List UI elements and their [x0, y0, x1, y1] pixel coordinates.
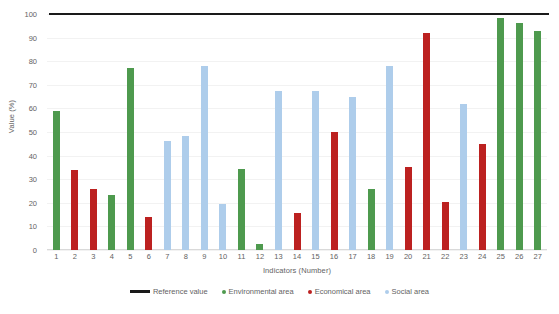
- x-axis-tick-label: 10: [219, 252, 227, 261]
- x-axis-tick-label: 22: [441, 252, 449, 261]
- x-axis-tick-label: 8: [184, 252, 188, 261]
- x-axis-tick-label: 24: [478, 252, 486, 261]
- x-axis-tick-label: 17: [348, 252, 356, 261]
- x-axis-tick-label: 14: [293, 252, 301, 261]
- x-axis-tick-label: 2: [73, 252, 77, 261]
- x-axis-tick-label: 3: [91, 252, 95, 261]
- bar-1[interactable]: [53, 111, 60, 250]
- y-axis-tick-label: 30: [29, 175, 37, 184]
- x-axis-tick-label: 13: [274, 252, 282, 261]
- y-axis-tick-label: 50: [29, 128, 37, 137]
- bar-chart: Value (%) 0102030405060708090100 1234567…: [0, 0, 559, 314]
- bar-26[interactable]: [516, 23, 523, 250]
- bar-4[interactable]: [108, 195, 115, 250]
- x-axis-tick-label: 12: [256, 252, 264, 261]
- x-axis-tick-label: 16: [330, 252, 338, 261]
- x-axis-tick-label: 19: [385, 252, 393, 261]
- bar-6[interactable]: [145, 217, 152, 250]
- bar-14[interactable]: [294, 213, 301, 250]
- y-axis-tick-label: 90: [29, 33, 37, 42]
- bar-8[interactable]: [182, 136, 189, 250]
- y-axis-tick-label: 60: [29, 104, 37, 113]
- bar-20[interactable]: [405, 167, 412, 250]
- legend-label-environmental-area: Environmental area: [229, 287, 294, 296]
- legend-item-environmental-area: Environmental area: [222, 287, 294, 296]
- x-axis-tick-label: 25: [497, 252, 505, 261]
- x-axis-tick-label: 23: [459, 252, 467, 261]
- x-axis-tick-label: 7: [165, 252, 169, 261]
- bar-10[interactable]: [219, 204, 226, 250]
- bar-11[interactable]: [238, 169, 245, 250]
- x-axis-tick-label: 11: [238, 252, 246, 261]
- bar-2[interactable]: [71, 170, 78, 250]
- bar-5[interactable]: [127, 68, 134, 250]
- y-axis-tick-label: 10: [29, 222, 37, 231]
- chart-legend: Reference value Environmental area Econo…: [0, 287, 559, 296]
- bar-17[interactable]: [349, 97, 356, 250]
- x-axis-tick-label: 26: [515, 252, 523, 261]
- x-axis-tick-label: 21: [422, 252, 430, 261]
- legend-label-reference-value: Reference value: [153, 287, 208, 296]
- line-swatch-icon: [130, 290, 150, 293]
- bar-9[interactable]: [201, 66, 208, 250]
- y-axis-tick-label: 80: [29, 57, 37, 66]
- x-axis-title: Indicators (Number): [47, 266, 547, 275]
- x-axis-tick-label: 9: [202, 252, 206, 261]
- y-axis-tick-label: 20: [29, 198, 37, 207]
- y-axis-tick-label: 100: [24, 10, 37, 19]
- bar-16[interactable]: [331, 132, 338, 250]
- x-axis-tick-label: 18: [367, 252, 375, 261]
- bar-13[interactable]: [275, 91, 282, 250]
- x-axis-tick-label: 4: [110, 252, 114, 261]
- gridline: [47, 250, 547, 251]
- bar-19[interactable]: [386, 66, 393, 250]
- bar-27[interactable]: [534, 31, 541, 250]
- x-axis-tick-label: 5: [128, 252, 132, 261]
- y-axis-tick-label: 0: [33, 246, 37, 255]
- legend-item-reference-value: Reference value: [130, 287, 208, 296]
- y-axis-tick-labels: 0102030405060708090100: [0, 14, 42, 250]
- legend-label-social-area: Social area: [392, 287, 430, 296]
- y-axis-tick-label: 70: [29, 80, 37, 89]
- dot-swatch-icon-social: [385, 290, 389, 294]
- dot-swatch-icon-economical: [308, 290, 312, 294]
- bar-12[interactable]: [256, 244, 263, 250]
- legend-item-social-area: Social area: [385, 287, 430, 296]
- plot-area: [47, 14, 547, 250]
- x-axis-tick-label: 15: [311, 252, 319, 261]
- bar-21[interactable]: [423, 33, 430, 250]
- bar-22[interactable]: [442, 202, 449, 250]
- x-axis-tick-labels: 1234567891011121314151617181920212223242…: [47, 252, 547, 266]
- bar-7[interactable]: [164, 141, 171, 250]
- bar-25[interactable]: [497, 18, 504, 250]
- dot-swatch-icon-environmental: [222, 290, 226, 294]
- bar-15[interactable]: [312, 91, 319, 250]
- x-axis-tick-label: 6: [147, 252, 151, 261]
- bar-18[interactable]: [368, 189, 375, 250]
- bar-24[interactable]: [479, 144, 486, 250]
- x-axis-tick-label: 20: [404, 252, 412, 261]
- x-axis-tick-label: 1: [54, 252, 58, 261]
- reference-value-line: [49, 13, 549, 15]
- bars-layer: [47, 14, 547, 250]
- x-axis-tick-label: 27: [534, 252, 542, 261]
- bar-3[interactable]: [90, 189, 97, 250]
- bar-23[interactable]: [460, 104, 467, 250]
- legend-item-economical-area: Economical area: [308, 287, 371, 296]
- legend-label-economical-area: Economical area: [315, 287, 371, 296]
- y-axis-tick-label: 40: [29, 151, 37, 160]
